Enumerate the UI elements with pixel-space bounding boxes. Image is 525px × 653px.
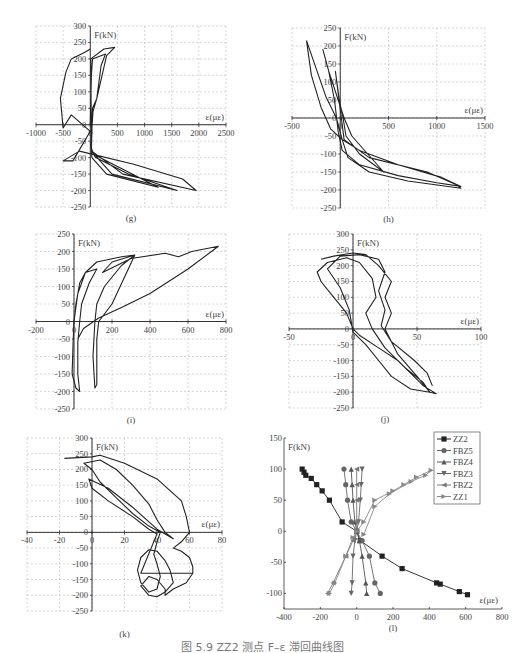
svg-text:1500: 1500 xyxy=(163,128,180,138)
circle-marker-icon xyxy=(367,554,372,559)
legend: ZZ2FBZ5FBZ4FBZ3FBZ2ZZ1 xyxy=(434,432,480,504)
panel-label: (j) xyxy=(381,414,390,424)
svg-text:F(kN): F(kN) xyxy=(96,442,118,452)
square-marker-icon xyxy=(438,582,443,587)
svg-text:400: 400 xyxy=(144,325,157,335)
svg-text:600: 600 xyxy=(459,612,472,622)
svg-text:ε(με): ε(με) xyxy=(480,595,498,605)
chart-g: -1000-50005001000150020002500-250-200-15… xyxy=(0,0,262,228)
svg-text:150: 150 xyxy=(74,70,87,80)
svg-text:100: 100 xyxy=(269,464,282,474)
triangle-right-marker-icon xyxy=(361,519,366,524)
chart-l-plot: -400-2000200400600800-100-50050100150F(k… xyxy=(262,426,525,638)
svg-text:1000: 1000 xyxy=(136,128,153,138)
svg-text:100: 100 xyxy=(74,87,87,97)
svg-text:1500: 1500 xyxy=(477,121,494,131)
square-marker-icon xyxy=(314,482,319,487)
svg-text:F(kN): F(kN) xyxy=(357,238,379,248)
svg-text:250: 250 xyxy=(57,229,70,239)
svg-text:ε(με): ε(με) xyxy=(461,316,479,326)
grid xyxy=(289,234,481,408)
svg-text:-200: -200 xyxy=(71,186,87,196)
svg-text:-50: -50 xyxy=(77,543,88,553)
svg-text:50: 50 xyxy=(413,332,422,342)
svg-text:FBZ3: FBZ3 xyxy=(453,469,473,479)
svg-text:0: 0 xyxy=(345,324,349,334)
svg-text:F(kN): F(kN) xyxy=(94,30,116,40)
axes: -40-20020406080-250-200-150-100-50050100… xyxy=(21,433,226,616)
chart-k-plot: -40-20020406080-250-200-150-100-50050100… xyxy=(0,426,262,638)
svg-text:100: 100 xyxy=(475,332,488,342)
chart-h-plot: -500050010001500-250-200-150-100-5005010… xyxy=(262,0,525,228)
chart-k: -40-20020406080-250-200-150-100-50050100… xyxy=(0,426,262,638)
svg-text:200: 200 xyxy=(336,261,349,271)
svg-text:200: 200 xyxy=(75,464,88,474)
grid xyxy=(27,438,222,611)
svg-text:800: 800 xyxy=(496,612,509,622)
triangle-down-marker-icon xyxy=(350,580,355,585)
svg-text:ZZ2: ZZ2 xyxy=(453,434,468,444)
chart-j: -50050100-250-200-150-100-50050100150200… xyxy=(262,226,525,426)
square-marker-icon xyxy=(465,592,470,597)
triangle-right-marker-icon xyxy=(390,488,395,493)
svg-text:-40: -40 xyxy=(21,535,32,545)
svg-text:100: 100 xyxy=(75,496,88,506)
svg-text:400: 400 xyxy=(423,612,436,622)
svg-text:150: 150 xyxy=(75,480,88,490)
triangle-down-marker-icon xyxy=(349,591,354,596)
triangle-up-marker-icon xyxy=(363,580,368,585)
chart-i-plot: -2000200400600800-250-200-150-100-500501… xyxy=(0,226,262,426)
svg-text:2000: 2000 xyxy=(190,128,207,138)
svg-text:F(kN): F(kN) xyxy=(288,442,310,452)
svg-text:300: 300 xyxy=(75,433,88,443)
triangle-up-marker-icon xyxy=(360,554,365,559)
square-marker-icon xyxy=(340,519,345,524)
svg-text:200: 200 xyxy=(57,247,70,257)
svg-text:ε(με): ε(με) xyxy=(206,112,224,122)
svg-text:150: 150 xyxy=(57,264,70,274)
square-marker-icon xyxy=(320,488,325,493)
svg-text:0: 0 xyxy=(355,612,359,622)
square-marker-icon xyxy=(441,436,446,441)
svg-text:FBZ5: FBZ5 xyxy=(453,446,473,456)
svg-text:-50: -50 xyxy=(338,340,349,350)
circle-marker-icon xyxy=(441,448,446,453)
svg-text:ε(με): ε(με) xyxy=(206,309,224,319)
series-hysteresis xyxy=(72,246,218,391)
square-marker-icon xyxy=(303,473,308,478)
svg-text:1000: 1000 xyxy=(428,121,445,131)
svg-text:FBZ2: FBZ2 xyxy=(453,480,473,490)
svg-text:50: 50 xyxy=(80,512,89,522)
svg-text:ZZ1: ZZ1 xyxy=(453,492,468,502)
svg-text:800: 800 xyxy=(220,325,233,335)
chart-j-plot: -50050100-250-200-150-100-50050100150200… xyxy=(262,226,525,426)
svg-text:150: 150 xyxy=(269,433,282,443)
circle-marker-icon xyxy=(345,498,350,503)
svg-text:-200: -200 xyxy=(313,612,329,622)
svg-text:200: 200 xyxy=(387,612,400,622)
svg-text:-500: -500 xyxy=(55,128,71,138)
svg-text:-250: -250 xyxy=(321,203,337,213)
svg-text:F(kN): F(kN) xyxy=(78,238,100,248)
svg-text:250: 250 xyxy=(324,23,337,33)
svg-text:250: 250 xyxy=(74,37,87,47)
svg-text:-200: -200 xyxy=(333,387,349,397)
panel-label: (h) xyxy=(383,214,394,224)
svg-text:-200: -200 xyxy=(72,590,88,600)
square-marker-icon xyxy=(399,566,404,571)
panel-label: (k) xyxy=(119,629,130,638)
svg-text:FBZ4: FBZ4 xyxy=(453,457,474,467)
svg-text:0: 0 xyxy=(278,526,282,536)
svg-text:50: 50 xyxy=(78,103,87,113)
triangle-right-marker-icon xyxy=(429,468,434,473)
chart-h: -500050010001500-250-200-150-100-5005010… xyxy=(262,0,525,228)
svg-text:-150: -150 xyxy=(71,169,87,179)
series-zz1 xyxy=(327,468,434,596)
square-marker-icon xyxy=(380,554,385,559)
panel-label: (i) xyxy=(127,415,136,425)
square-marker-icon xyxy=(327,498,332,503)
svg-text:2500: 2500 xyxy=(218,128,235,138)
svg-text:0: 0 xyxy=(66,317,70,327)
svg-text:0: 0 xyxy=(90,535,94,545)
svg-text:-50: -50 xyxy=(59,334,70,344)
